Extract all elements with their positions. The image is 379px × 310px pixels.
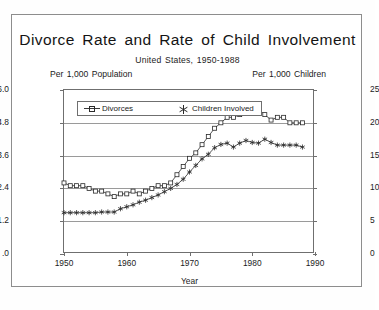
data-point-marker bbox=[100, 189, 104, 193]
data-point-marker bbox=[118, 206, 123, 211]
data-point-marker bbox=[131, 202, 136, 207]
data-point-marker bbox=[288, 121, 292, 125]
data-point-marker bbox=[125, 192, 129, 196]
data-point-marker bbox=[188, 156, 192, 160]
x-tick-mark bbox=[315, 252, 316, 256]
right-tick-label: 0 bbox=[370, 248, 375, 258]
data-point-marker bbox=[150, 186, 154, 190]
chart-title: Divorce Rate and Rate of Child Involveme… bbox=[12, 31, 363, 49]
left-tick-label: 4.8 bbox=[0, 117, 9, 127]
series-children-involved bbox=[62, 137, 305, 216]
data-point-marker bbox=[75, 184, 79, 188]
square-marker-icon bbox=[88, 105, 97, 114]
data-point-marker bbox=[169, 181, 173, 185]
right-tick-label: 20 bbox=[370, 117, 379, 127]
data-point-marker bbox=[137, 200, 142, 205]
data-point-marker bbox=[137, 192, 141, 196]
data-point-marker bbox=[106, 192, 110, 196]
data-point-marker bbox=[162, 189, 167, 194]
data-point-marker bbox=[150, 195, 155, 200]
data-point-marker bbox=[275, 115, 279, 119]
data-point-marker bbox=[231, 144, 236, 149]
data-point-marker bbox=[282, 115, 286, 119]
left-tick-label: 6.0 bbox=[0, 84, 9, 94]
left-axis-header: Per 1,000 Population bbox=[50, 69, 132, 79]
data-point-marker bbox=[112, 195, 116, 199]
data-point-marker bbox=[181, 165, 185, 169]
legend-label-divorces: Divorces bbox=[102, 104, 133, 113]
chart-outer-frame: Divorce Rate and Rate of Child Involveme… bbox=[11, 14, 362, 287]
chart-legend: Divorces Children Involved bbox=[77, 101, 262, 116]
data-point-marker bbox=[87, 186, 91, 190]
x-tick-label: 1950 bbox=[55, 258, 74, 268]
data-point-marker bbox=[143, 198, 148, 203]
data-point-marker bbox=[269, 140, 274, 145]
data-point-marker bbox=[124, 204, 129, 209]
data-point-marker bbox=[194, 151, 198, 155]
x-tick-label: 1990 bbox=[306, 258, 325, 268]
data-point-marker bbox=[263, 137, 268, 142]
x-axis-label: Year bbox=[64, 276, 315, 286]
x-tick-label: 1970 bbox=[180, 258, 199, 268]
left-tick-label: 3.6 bbox=[0, 150, 9, 160]
series-divorces bbox=[62, 107, 304, 198]
left-tick-label: .0 bbox=[2, 248, 9, 258]
left-tick-label: 1.2 bbox=[0, 215, 9, 225]
data-point-marker bbox=[144, 189, 148, 193]
data-point-marker bbox=[93, 189, 97, 193]
data-point-marker bbox=[300, 121, 304, 125]
legend-label-children-involved: Children Involved bbox=[192, 104, 254, 113]
chart-subtitle: United States, 1950-1988 bbox=[12, 55, 363, 65]
data-point-marker bbox=[269, 118, 273, 122]
data-point-marker bbox=[294, 121, 298, 125]
data-point-marker bbox=[200, 143, 204, 147]
data-point-marker bbox=[62, 181, 66, 185]
x-tick-label: 1960 bbox=[117, 258, 136, 268]
data-point-marker bbox=[156, 184, 160, 188]
left-tick-label: 2.4 bbox=[0, 182, 9, 192]
data-point-marker bbox=[68, 184, 72, 188]
data-point-marker bbox=[118, 192, 122, 196]
data-point-marker bbox=[244, 138, 249, 143]
data-point-marker bbox=[156, 192, 161, 197]
asterisk-marker-icon bbox=[178, 104, 189, 115]
data-point-marker bbox=[237, 141, 242, 146]
right-tick-label: 15 bbox=[370, 150, 379, 160]
plot-area: .01.22.43.64.86.0 0510152025 19501960197… bbox=[63, 89, 314, 253]
data-point-marker bbox=[162, 184, 166, 188]
data-point-marker bbox=[168, 186, 173, 191]
data-point-marker bbox=[263, 113, 267, 117]
right-tick-label: 25 bbox=[370, 84, 379, 94]
data-point-marker bbox=[175, 173, 179, 177]
x-tick-label: 1980 bbox=[243, 258, 262, 268]
data-point-marker bbox=[131, 189, 135, 193]
data-point-marker bbox=[81, 184, 85, 188]
data-point-marker bbox=[300, 144, 305, 149]
data-point-marker bbox=[206, 134, 210, 138]
right-axis-header: Per 1,000 Children bbox=[252, 69, 326, 79]
data-point-marker bbox=[213, 126, 217, 130]
data-point-marker bbox=[219, 121, 223, 125]
right-tick-label: 5 bbox=[370, 215, 375, 225]
right-tick-label: 10 bbox=[370, 182, 379, 192]
